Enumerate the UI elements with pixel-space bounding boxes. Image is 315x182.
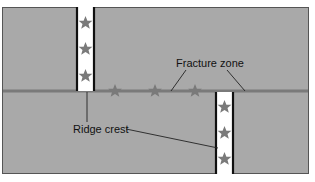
star-icon bbox=[108, 84, 122, 97]
star-icon bbox=[148, 84, 162, 97]
star-icon bbox=[188, 84, 202, 97]
fracture-zone-label: Fracture zone bbox=[176, 58, 244, 69]
mid-ocean-ridge-diagram bbox=[0, 0, 315, 182]
right-ridge-segment bbox=[216, 92, 233, 174]
left-ridge-segment bbox=[77, 7, 94, 91]
ridge-crest-label: Ridge crest bbox=[73, 124, 129, 135]
